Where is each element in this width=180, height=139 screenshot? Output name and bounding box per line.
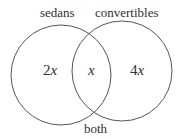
- convertibles-only-coef: 4: [130, 62, 138, 78]
- both-label: both: [84, 121, 107, 137]
- convertibles-label: convertibles: [95, 5, 159, 21]
- convertibles-only-var: x: [138, 62, 145, 78]
- sedans-only-value: 2x: [43, 62, 57, 79]
- sedans-only-var: x: [51, 62, 58, 78]
- both-var: x: [88, 62, 95, 78]
- sedans-only-coef: 2: [43, 62, 51, 78]
- sedans-label: sedans: [40, 5, 75, 21]
- sedans-circle: [11, 25, 111, 125]
- convertibles-circle: [72, 21, 172, 121]
- both-value: x: [88, 62, 95, 79]
- convertibles-only-value: 4x: [130, 62, 144, 79]
